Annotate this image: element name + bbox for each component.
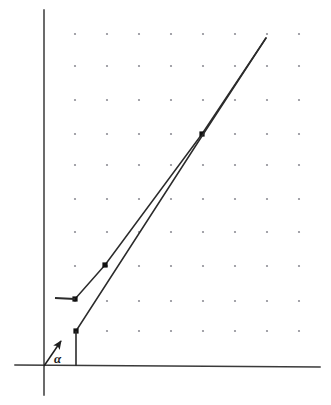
grid-dot	[298, 65, 300, 67]
grid-dot	[298, 99, 300, 101]
grid-dot	[202, 164, 204, 166]
grid-dot	[106, 330, 108, 332]
grid-dot	[202, 65, 204, 67]
grid-dot	[234, 265, 236, 267]
grid-dot	[266, 300, 268, 302]
grid-dot	[138, 99, 140, 101]
grid-dot	[170, 265, 172, 267]
grid-dot	[202, 330, 204, 332]
grid-dot	[74, 265, 76, 267]
grid-dot	[170, 300, 172, 302]
grid-dot	[234, 164, 236, 166]
grid-dot	[266, 164, 268, 166]
grid-dot	[266, 330, 268, 332]
grid-dot	[202, 33, 204, 35]
grid-dot	[266, 265, 268, 267]
grid-dot	[74, 164, 76, 166]
grid-dot	[170, 231, 172, 233]
grid-dot-lattice	[74, 33, 300, 332]
grid-dot	[202, 99, 204, 101]
series-line-upper-left-line	[75, 38, 266, 299]
grid-dot	[298, 133, 300, 135]
grid-dot	[298, 265, 300, 267]
grid-dot	[138, 164, 140, 166]
grid-dot	[234, 198, 236, 200]
grid-dot	[106, 133, 108, 135]
grid-dot	[266, 33, 268, 35]
grid-dot	[138, 198, 140, 200]
grid-dot	[106, 198, 108, 200]
grid-dot	[138, 65, 140, 67]
grid-dot	[234, 300, 236, 302]
grid-dot	[74, 133, 76, 135]
line-diagram-svg	[0, 0, 331, 405]
grid-dot	[298, 33, 300, 35]
grid-dot	[74, 231, 76, 233]
grid-dot	[170, 65, 172, 67]
grid-dot	[170, 330, 172, 332]
grid-dot	[266, 99, 268, 101]
grid-dot	[202, 265, 204, 267]
grid-dot	[266, 133, 268, 135]
figure-canvas: α	[0, 0, 331, 405]
grid-dot	[170, 164, 172, 166]
grid-dot	[234, 330, 236, 332]
grid-dot	[234, 99, 236, 101]
grid-dot	[234, 133, 236, 135]
grid-dot	[298, 198, 300, 200]
grid-dot	[234, 231, 236, 233]
grid-dot	[106, 300, 108, 302]
grid-dot	[170, 198, 172, 200]
grid-dot	[266, 65, 268, 67]
grid-dot	[74, 198, 76, 200]
grid-dot	[298, 300, 300, 302]
grid-dot	[106, 231, 108, 233]
series-line-lower-right-line	[76, 38, 266, 331]
data-point-marker	[102, 262, 107, 267]
grid-dot	[74, 33, 76, 35]
grid-dot	[138, 330, 140, 332]
angle-alpha-label: α	[54, 352, 61, 365]
axes-group	[15, 10, 320, 395]
horizontal-tick	[55, 298, 75, 299]
grid-dot	[74, 99, 76, 101]
grid-dot	[170, 133, 172, 135]
grid-dot	[106, 164, 108, 166]
grid-dot	[170, 99, 172, 101]
grid-dot	[106, 65, 108, 67]
grid-dot	[106, 33, 108, 35]
grid-dot	[138, 300, 140, 302]
grid-dot	[138, 133, 140, 135]
grid-dot	[298, 164, 300, 166]
grid-dot	[266, 231, 268, 233]
grid-dot	[298, 231, 300, 233]
grid-dot	[202, 231, 204, 233]
grid-dot	[234, 65, 236, 67]
grid-dot	[170, 33, 172, 35]
grid-dot	[234, 33, 236, 35]
grid-dot	[74, 65, 76, 67]
grid-dot	[202, 198, 204, 200]
grid-dot	[266, 198, 268, 200]
grid-dot	[106, 99, 108, 101]
grid-dot	[138, 33, 140, 35]
data-series-group	[72, 38, 266, 334]
grid-dot	[202, 300, 204, 302]
grid-dot	[298, 330, 300, 332]
grid-dot	[138, 265, 140, 267]
